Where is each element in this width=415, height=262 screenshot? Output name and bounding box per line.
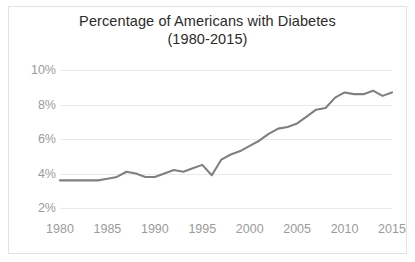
- y-tick-label-10%: 10%: [14, 63, 56, 77]
- chart-title-line2: (1980-2015): [20, 30, 395, 48]
- chart-title-line1: Percentage of Americans with Diabetes: [79, 13, 336, 29]
- gridline-2%: [60, 208, 392, 209]
- x-tick-label-2000: 2000: [236, 222, 264, 236]
- x-tick-label-1980: 1980: [46, 222, 74, 236]
- x-tick-label-1995: 1995: [188, 222, 216, 236]
- x-tick-label-1990: 1990: [141, 222, 169, 236]
- x-tick-label-1985: 1985: [94, 222, 122, 236]
- x-tick-label-2005: 2005: [283, 222, 311, 236]
- plot-area: [60, 70, 392, 208]
- x-tick-label-2015: 2015: [378, 222, 406, 236]
- y-tick-label-4%: 4%: [14, 167, 56, 181]
- series-polyline: [60, 91, 392, 181]
- y-tick-label-8%: 8%: [14, 98, 56, 112]
- x-tick-label-2010: 2010: [331, 222, 359, 236]
- y-tick-label-6%: 6%: [14, 132, 56, 146]
- diabetes-percentage-line-series: [60, 70, 392, 208]
- y-tick-label-2%: 2%: [14, 201, 56, 215]
- chart-title: Percentage of Americans with Diabetes (1…: [20, 12, 395, 48]
- x-axis-labels: 19801985199019952000200520102015: [60, 222, 392, 242]
- chart-container: Percentage of Americans with Diabetes (1…: [0, 0, 415, 262]
